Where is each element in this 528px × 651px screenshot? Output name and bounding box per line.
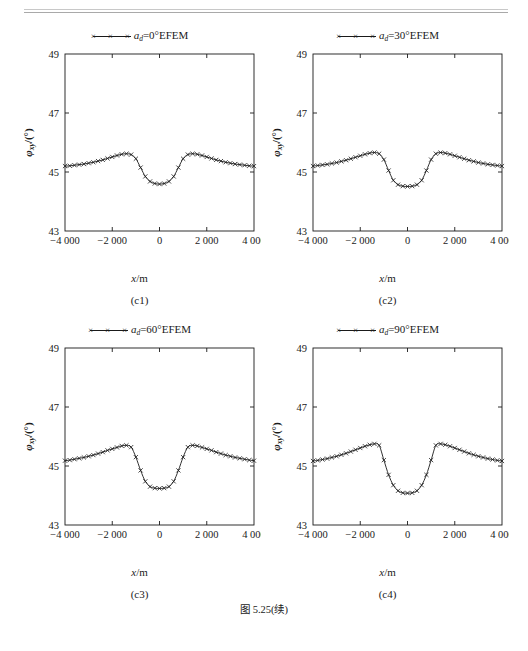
xaxis-label-c2: x/m	[266, 272, 509, 284]
ytick-label: 45	[49, 461, 60, 472]
xtick-label: 4 000	[490, 529, 509, 540]
plot-svg-c3: −4 000−2 00002 0004 00043454749φxy/(°)	[18, 340, 261, 560]
xtick-label: −2 000	[97, 235, 127, 246]
legend-x-marker: ×	[370, 325, 375, 335]
legend-x-marker: ×	[370, 31, 375, 41]
ytick-label: 45	[49, 167, 60, 178]
xtick-label: −2 000	[97, 529, 127, 540]
legend-value: =0°EFEM	[143, 29, 188, 41]
ytick-label: 43	[297, 226, 308, 237]
ytick-label: 47	[49, 108, 60, 119]
svg-text:φxy/(°): φxy/(°)	[22, 422, 36, 451]
plot-svg-c2: −4 000−2 00002 0004 00043454749φxy/(°)	[266, 46, 509, 266]
xtick-label: 0	[157, 529, 162, 540]
xtick-label: 2 000	[195, 235, 219, 246]
legend-label-c4: ad=90°EFEM	[379, 323, 439, 337]
legend-x-marker: ×	[336, 31, 341, 41]
data-series-line	[313, 153, 502, 187]
legend-label-c3: ad=60°EFEM	[131, 323, 191, 337]
legend-x-marker: ×	[353, 325, 358, 335]
data-series-line	[313, 444, 502, 494]
xtick-label: −2 000	[345, 529, 375, 540]
legend-x-marker: ×	[108, 31, 113, 41]
data-point-markers	[63, 152, 256, 187]
legend-marker-sample: × × ×	[91, 31, 133, 41]
xtick-label: 2 000	[443, 529, 467, 540]
xtick-label: 4 000	[242, 529, 261, 540]
legend-c3: × × × ad=60°EFEM	[18, 320, 261, 340]
plot-panel-c2: × × × ad=30°EFEM −4 000−2 00002 0004 000…	[266, 26, 509, 316]
legend-c2: × × × ad=30°EFEM	[266, 26, 509, 46]
ytick-label: 47	[297, 402, 308, 413]
plot-area-c3: −4 000−2 00002 0004 00043454749φxy/(°)	[18, 340, 261, 560]
data-point-markers	[311, 150, 504, 188]
header-rule-top	[24, 9, 508, 10]
data-series-line	[65, 154, 254, 184]
data-series-line	[65, 445, 254, 488]
yaxis-label: φxy/(°)	[270, 128, 284, 157]
legend-value: =60°EFEM	[140, 323, 191, 335]
ytick-label: 45	[297, 461, 308, 472]
plot-area-c4: −4 000−2 00002 0004 00043454749φxy/(°)	[266, 340, 509, 560]
xtick-label: 4 000	[242, 235, 261, 246]
plot-area-c2: −4 000−2 00002 0004 00043454749φxy/(°)	[266, 46, 509, 266]
yaxis-label: φxy/(°)	[270, 422, 284, 451]
legend-value: =90°EFEM	[388, 323, 439, 335]
plot-panel-c3: × × × ad=60°EFEM −4 000−2 00002 0004 000…	[18, 320, 261, 610]
ytick-label: 49	[49, 49, 60, 60]
subcaption-c2: (c2)	[266, 294, 509, 306]
ytick-label: 43	[49, 226, 60, 237]
svg-text:φxy/(°): φxy/(°)	[270, 422, 284, 451]
legend-x-marker: ×	[353, 31, 358, 41]
svg-text:φxy/(°): φxy/(°)	[22, 128, 36, 157]
header-rule-bottom	[24, 12, 508, 13]
xaxis-label-c1: x/m	[18, 272, 261, 284]
legend-x-marker: ×	[105, 325, 110, 335]
legend-label-c2: ad=30°EFEM	[379, 29, 439, 43]
page-header: · · · · · ·	[0, 0, 528, 22]
yaxis-label: φxy/(°)	[22, 128, 36, 157]
data-point-markers	[63, 443, 256, 490]
legend-marker-sample: × × ×	[336, 31, 378, 41]
svg-text:φxy/(°): φxy/(°)	[270, 128, 284, 157]
plot-panel-c4: × × × ad=90°EFEM −4 000−2 00002 0004 000…	[266, 320, 509, 610]
ytick-label: 43	[49, 520, 60, 531]
ytick-label: 45	[297, 167, 308, 178]
ytick-label: 47	[49, 402, 60, 413]
xaxis-label-c4: x/m	[266, 566, 509, 578]
xtick-label: 2 000	[443, 235, 467, 246]
legend-x-marker: ×	[336, 325, 341, 335]
legend-x-marker: ×	[125, 31, 130, 41]
xtick-label: 4 000	[490, 235, 509, 246]
legend-x-marker: ×	[122, 325, 127, 335]
plot-panel-c1: × × × ad=0°EFEM −4 000−2 00002 0004 0004…	[18, 26, 261, 316]
figure-caption: 图 5.25(续)	[0, 601, 528, 616]
subcaption-c1: (c1)	[18, 294, 261, 306]
figure-5-25: × × × ad=0°EFEM −4 000−2 00002 0004 0004…	[0, 22, 528, 651]
subcaption-c4: (c4)	[266, 588, 509, 600]
legend-label-c1: ad=0°EFEM	[134, 29, 189, 43]
legend-c4: × × × ad=90°EFEM	[266, 320, 509, 340]
plot-area-c1: −4 000−2 00002 0004 00043454749φxy/(°)	[18, 46, 261, 266]
legend-x-marker: ×	[91, 31, 96, 41]
legend-marker-sample: × × ×	[88, 325, 130, 335]
xaxis-label-c3: x/m	[18, 566, 261, 578]
ytick-label: 43	[297, 520, 308, 531]
ytick-label: 49	[297, 49, 308, 60]
page-header-text: · · · · · ·	[0, 0, 528, 4]
plot-svg-c4: −4 000−2 00002 0004 00043454749φxy/(°)	[266, 340, 509, 560]
xtick-label: 0	[157, 235, 162, 246]
xtick-label: 0	[405, 235, 410, 246]
legend-marker-sample: × × ×	[336, 325, 378, 335]
legend-x-marker: ×	[88, 325, 93, 335]
legend-c1: × × × ad=0°EFEM	[18, 26, 261, 46]
ytick-label: 49	[297, 343, 308, 354]
subcaption-c3: (c3)	[18, 588, 261, 600]
ytick-label: 47	[297, 108, 308, 119]
xtick-label: 0	[405, 529, 410, 540]
xtick-label: −2 000	[345, 235, 375, 246]
xtick-label: 2 000	[195, 529, 219, 540]
ytick-label: 49	[49, 343, 60, 354]
yaxis-label: φxy/(°)	[22, 422, 36, 451]
data-point-markers	[311, 442, 504, 495]
